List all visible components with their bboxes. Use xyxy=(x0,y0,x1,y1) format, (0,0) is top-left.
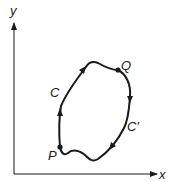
path-c-prime-label: C′ xyxy=(127,119,139,134)
arrow-down-icon xyxy=(127,96,133,103)
y-axis-label: y xyxy=(9,3,18,18)
point-p xyxy=(57,144,62,149)
point-p-label: P xyxy=(48,148,57,163)
axes: y x xyxy=(9,3,166,182)
x-axis-label: x xyxy=(158,167,166,182)
path-c-label: C xyxy=(50,85,60,100)
point-q-label: Q xyxy=(121,58,131,73)
path-c-prime xyxy=(60,70,130,160)
line-integral-diagram: y x P Q C C′ xyxy=(0,0,171,182)
arrow-up-icon xyxy=(57,108,63,116)
path-c xyxy=(59,62,118,147)
point-q xyxy=(115,67,120,72)
